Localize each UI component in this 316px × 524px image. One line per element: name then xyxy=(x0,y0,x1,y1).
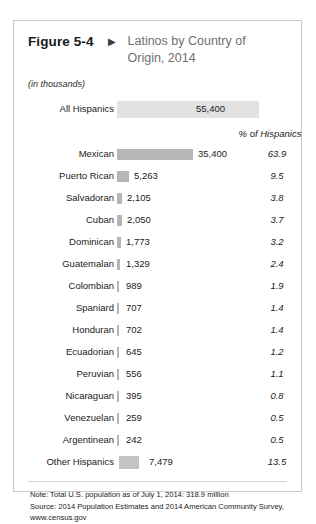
row-label: Honduran xyxy=(14,319,114,341)
total-row-value: 55,400 xyxy=(196,98,225,120)
row-label: Peruvian xyxy=(14,363,114,385)
row-bar xyxy=(117,435,119,446)
table-row: Salvadoran2,1053.8 xyxy=(14,187,301,209)
table-row: Guatemalan1,3292.4 xyxy=(14,253,301,275)
row-percent: 13.5 xyxy=(240,451,314,473)
row-percent: 1.4 xyxy=(240,297,314,319)
row-label: Dominican xyxy=(14,231,114,253)
data-rows-host: Mexican35,40063.9Puerto Rican5,2639.5Sal… xyxy=(14,143,301,451)
table-row: Dominican1,7733.2 xyxy=(14,231,301,253)
row-label: Other Hispanics xyxy=(14,451,114,473)
row-value: 556 xyxy=(126,363,142,385)
row-label: Cuban xyxy=(14,209,114,231)
table-row: Venezuelan2590.5 xyxy=(14,407,301,429)
table-row: Peruvian5561.1 xyxy=(14,363,301,385)
total-row: All Hispanics 55,400 xyxy=(14,98,301,120)
row-percent: 3.7 xyxy=(240,209,314,231)
table-row: Argentinean2420.5 xyxy=(14,429,301,451)
figure-card: Figure 5-4 ▶ Latinos by Country of Origi… xyxy=(13,20,302,492)
figure-header: Figure 5-4 ▶ Latinos by Country of Origi… xyxy=(14,21,301,67)
row-percent: 63.9 xyxy=(240,143,314,165)
row-label: Argentinean xyxy=(14,429,114,451)
row-label: Colombian xyxy=(14,275,114,297)
row-bar xyxy=(117,347,119,358)
row-label: Nicaraguan xyxy=(14,385,114,407)
total-row-label: All Hispanics xyxy=(14,98,114,120)
row-percent: 1.9 xyxy=(240,275,314,297)
row-bar xyxy=(119,456,139,469)
table-row: Puerto Rican5,2639.5 xyxy=(14,165,301,187)
row-bar xyxy=(117,281,119,292)
row-label: Salvadoran xyxy=(14,187,114,209)
row-label: Puerto Rican xyxy=(14,165,114,187)
row-label: Spaniard xyxy=(14,297,114,319)
units-note: (in thousands) xyxy=(28,79,301,89)
data-table: All Hispanics 55,400 % of Hispanics Mexi… xyxy=(14,98,301,473)
row-label: Guatemalan xyxy=(14,253,114,275)
row-value: 702 xyxy=(126,319,142,341)
row-bar xyxy=(117,303,119,314)
row-value: 2,105 xyxy=(127,187,151,209)
figure-number-label: Figure 5-4 xyxy=(28,33,94,50)
row-percent: 1.1 xyxy=(240,363,314,385)
row-percent: 0.5 xyxy=(240,407,314,429)
row-value: 1,773 xyxy=(126,231,150,253)
row-bar xyxy=(117,215,122,226)
row-bar xyxy=(117,259,120,270)
row-percent: 9.5 xyxy=(240,165,314,187)
percent-column-header: % of Hispanics xyxy=(226,125,314,143)
other-hispanics-row: Other Hispanics 7,479 13.5 xyxy=(14,451,301,473)
table-row: Mexican35,40063.9 xyxy=(14,143,301,165)
row-bar xyxy=(117,369,119,380)
row-percent: 3.2 xyxy=(240,231,314,253)
row-bar xyxy=(117,237,121,248)
row-percent: 1.4 xyxy=(240,319,314,341)
triangle-right-icon: ▶ xyxy=(106,33,118,50)
row-percent: 3.8 xyxy=(240,187,314,209)
row-value: 707 xyxy=(126,297,142,319)
table-row: Ecuadorian6451.2 xyxy=(14,341,301,363)
row-bar xyxy=(117,149,193,160)
footnote-source: Source: 2014 Population Estimates and 20… xyxy=(30,501,285,513)
row-bar xyxy=(117,193,122,204)
row-label: Ecuadorian xyxy=(14,341,114,363)
row-percent: 1.2 xyxy=(240,341,314,363)
figure-title: Latinos by Country of Origin, 2014 xyxy=(128,33,260,67)
row-value: 989 xyxy=(126,275,142,297)
row-label: Mexican xyxy=(14,143,114,165)
row-value: 5,263 xyxy=(134,165,158,187)
row-bar xyxy=(117,325,119,336)
row-bar xyxy=(117,413,119,424)
row-bar xyxy=(117,171,129,182)
table-row: Spaniard7071.4 xyxy=(14,297,301,319)
row-value: 645 xyxy=(126,341,142,363)
row-value: 2,050 xyxy=(127,209,151,231)
table-row: Nicaraguan3950.8 xyxy=(14,385,301,407)
table-row: Colombian9891.9 xyxy=(14,275,301,297)
row-percent: 0.5 xyxy=(240,429,314,451)
footnote-note: Note: Total U.S. population as of July 1… xyxy=(30,489,285,501)
row-percent: 2.4 xyxy=(240,253,314,275)
row-value: 35,400 xyxy=(198,143,227,165)
footnote-url[interactable]: www.census.gov xyxy=(30,512,285,524)
row-value: 7,479 xyxy=(149,451,173,473)
row-percent: 0.8 xyxy=(240,385,314,407)
footnote-divider xyxy=(28,481,287,482)
table-row: Cuban2,0503.7 xyxy=(14,209,301,231)
row-value: 259 xyxy=(126,407,142,429)
row-label: Venezuelan xyxy=(14,407,114,429)
row-value: 395 xyxy=(126,385,142,407)
row-value: 242 xyxy=(126,429,142,451)
table-row: Honduran7021.4 xyxy=(14,319,301,341)
footnotes: Note: Total U.S. population as of July 1… xyxy=(30,489,285,524)
total-row-highlight xyxy=(117,101,259,118)
column-header-row: % of Hispanics xyxy=(14,125,301,143)
row-bar xyxy=(117,391,119,402)
row-value: 1,329 xyxy=(126,253,150,275)
